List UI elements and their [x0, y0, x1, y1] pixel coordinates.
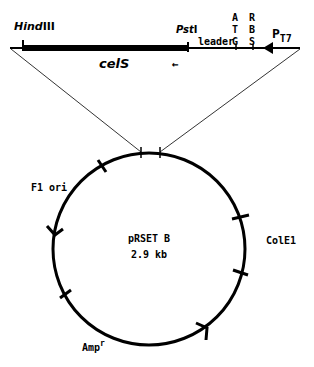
plasmid-size-label: 2.9 kb	[131, 249, 167, 260]
transcription-direction-arrow-icon: ←	[172, 58, 179, 71]
promoter-label: PT7	[272, 26, 292, 44]
f1-ori-label: F1 ori	[31, 182, 67, 193]
insert-map: HindIII PstI leader A T G R B S PT7 celS…	[10, 12, 300, 71]
atg-letter-t: T	[232, 24, 238, 35]
plasmid-map-diagram: HindIII PstI leader A T G R B S PT7 celS…	[0, 0, 314, 367]
psti-label: PstI	[176, 24, 197, 35]
plasmid-name-label: pRSET B	[128, 233, 170, 244]
plasmid-circle-map: F1 ori ColE1 Ampr pRSET B 2.9 kb	[31, 147, 296, 353]
hindiii-label: HindIII	[14, 20, 55, 33]
cels-gene-bar	[22, 45, 188, 51]
rbs-letter-s: S	[249, 36, 255, 47]
atg-letter-a: A	[232, 12, 238, 23]
cels-gene-label: celS	[99, 56, 129, 71]
cole1-start-tick	[232, 215, 249, 219]
leader-label: leader	[198, 36, 234, 47]
cole1-label: ColE1	[266, 235, 296, 246]
rbs-letter-r: R	[249, 12, 256, 23]
atg-letter-g: G	[232, 36, 238, 47]
ampr-label: Ampr	[82, 339, 105, 353]
rbs-letter-b: B	[249, 24, 255, 35]
t7-promoter-arrow-icon	[263, 42, 273, 54]
expansion-line-right	[160, 49, 300, 152]
